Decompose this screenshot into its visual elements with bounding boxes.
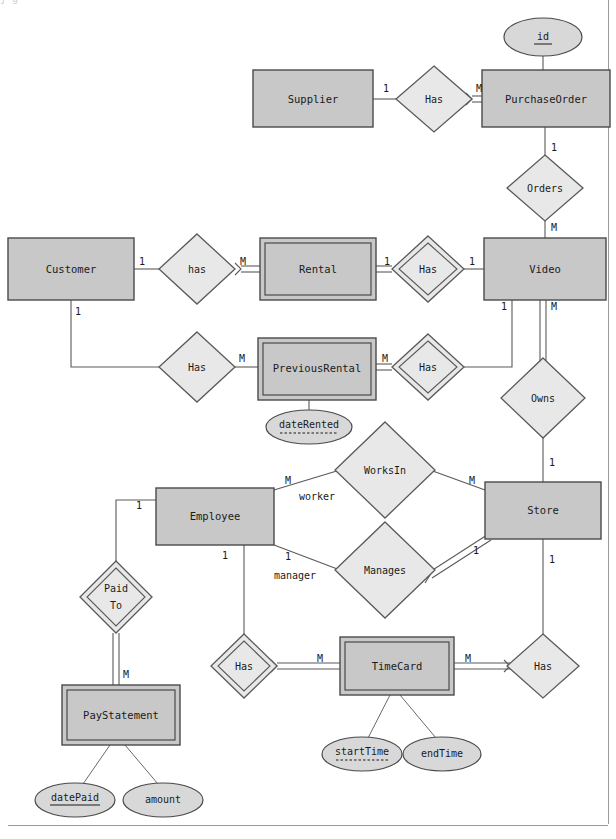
attribute-amount[interactable]: amount: [123, 783, 203, 817]
entity-timecard-label: TimeCard: [372, 660, 423, 672]
relationship-owns-label: Owns: [531, 393, 555, 404]
relationship-worksin[interactable]: WorksIn: [335, 422, 435, 518]
attribute-daterented-label: dateRented: [279, 419, 339, 430]
link-worksin-store: [430, 470, 485, 490]
entity-customer-label: Customer: [46, 263, 97, 275]
cardinality-label: 1: [549, 457, 555, 468]
link-paystatement-datepaid: [83, 745, 110, 784]
cardinality-label: M: [551, 222, 557, 233]
relationship-has-customer-rental-label: has: [188, 264, 206, 275]
entity-video-label: Video: [529, 263, 561, 275]
entity-supplier[interactable]: Supplier: [253, 70, 373, 127]
role-label-manager: manager: [274, 570, 316, 581]
attribute-starttime-label: startTime: [335, 746, 389, 757]
attribute-id[interactable]: id: [504, 18, 582, 56]
entity-video[interactable]: Video: [484, 238, 606, 300]
relationship-paid-to-label-line2: To: [110, 600, 122, 611]
cardinality-label: M: [476, 83, 482, 94]
relationship-has-customer-prevrental[interactable]: Has: [159, 332, 235, 402]
relationship-has-rental-video[interactable]: Has: [392, 236, 464, 302]
attribute-datepaid[interactable]: datePaid: [35, 783, 115, 817]
relationship-has-supplier-po[interactable]: Has: [396, 66, 472, 132]
cardinality-label: M: [285, 475, 291, 486]
relationship-has-customer-prevrental-label: Has: [188, 362, 206, 373]
entity-store[interactable]: Store: [485, 482, 601, 539]
relationship-worksin-label: WorksIn: [364, 465, 406, 476]
entity-employee[interactable]: Employee: [156, 488, 274, 545]
cardinality-label: M: [239, 353, 245, 364]
entity-paystatement-label: PayStatement: [83, 709, 159, 721]
relationship-paid-to-label-line1: Paid: [104, 583, 128, 594]
link-employee-manages: [274, 545, 340, 570]
link-paystatement-amount: [125, 745, 158, 784]
relationship-manages[interactable]: Manages: [335, 522, 435, 618]
entity-supplier-label: Supplier: [288, 93, 339, 105]
cardinality-label: M: [469, 475, 475, 486]
entity-purchaseorder[interactable]: PurchaseOrder: [482, 70, 610, 127]
relationship-has-supplier-po-label: Has: [425, 94, 443, 105]
cardinality-label: 1: [383, 83, 389, 94]
cardinality-label: 1: [75, 306, 81, 317]
link-manages-store-b: [432, 540, 491, 578]
cardinality-label: 1: [285, 551, 291, 562]
entity-employee-label: Employee: [190, 510, 241, 522]
relationship-has-employee-timecard-label: Has: [235, 661, 253, 672]
attribute-endtime[interactable]: endTime: [403, 737, 481, 771]
attribute-endtime-label: endTime: [421, 748, 463, 759]
cardinality-label: 1: [549, 554, 555, 565]
cardinality-label: M: [465, 653, 471, 664]
entity-rental-label: Rental: [299, 263, 337, 275]
attribute-starttime[interactable]: startTime: [322, 737, 402, 771]
relationship-manages-label: Manages: [364, 565, 406, 576]
relationship-has-prevrental-video-label: Has: [419, 362, 437, 373]
cardinality-label: M: [317, 653, 323, 664]
attribute-datepaid-label: datePaid: [51, 792, 99, 803]
relationship-orders-label: Orders: [527, 183, 563, 194]
relationship-has-customer-rental[interactable]: has: [159, 234, 235, 304]
cardinality-label: 1: [501, 301, 507, 312]
attribute-amount-label: amount: [145, 794, 181, 805]
entity-timecard[interactable]: TimeCard: [340, 637, 454, 695]
role-label-worker: worker: [299, 491, 335, 502]
relationship-paid-to[interactable]: Paid To: [80, 561, 152, 633]
cardinality-label: 1: [222, 550, 228, 561]
entity-previousrental-label: PreviousRental: [273, 362, 362, 374]
entity-customer[interactable]: Customer: [8, 238, 134, 300]
er-diagram-svg: Supplier PurchaseOrder Customer Rental V…: [0, 0, 616, 839]
cardinality-label: 1: [469, 256, 475, 267]
cardinality-label: M: [382, 353, 388, 364]
cardinality-label: 1: [136, 500, 142, 511]
link-employee-worksin: [274, 470, 340, 490]
entity-previousrental[interactable]: PreviousRental: [258, 338, 376, 400]
cardinality-label: 1: [551, 142, 557, 153]
relationship-orders[interactable]: Orders: [507, 155, 583, 221]
relationship-has-store-timecard-label: Has: [534, 661, 552, 672]
relationship-has-prevrental-video[interactable]: Has: [392, 334, 464, 400]
relationship-owns[interactable]: Owns: [501, 358, 585, 438]
entity-rental[interactable]: Rental: [260, 238, 376, 300]
er-diagram-canvas: j g: [0, 0, 616, 839]
link-timecard-starttime: [368, 695, 390, 738]
cardinality-label: M: [240, 256, 246, 267]
entity-paystatement[interactable]: PayStatement: [62, 685, 180, 745]
cardinality-label: M: [551, 301, 557, 312]
entity-store-label: Store: [527, 504, 559, 516]
cardinality-label: 1: [473, 545, 479, 556]
cardinality-label: M: [123, 669, 129, 680]
entity-purchaseorder-label: PurchaseOrder: [505, 93, 587, 105]
link-timecard-endtime: [400, 695, 436, 738]
relationship-has-employee-timecard[interactable]: Has: [211, 634, 277, 698]
relationship-has-rental-video-label: Has: [419, 264, 437, 275]
attribute-id-label: id: [537, 31, 549, 42]
cardinality-label: 1: [384, 256, 390, 267]
attribute-daterented[interactable]: dateRented: [266, 410, 352, 444]
role-labels-layer: worker manager: [274, 491, 335, 581]
relationship-has-store-timecard[interactable]: Has: [507, 634, 579, 698]
cardinality-label: 1: [139, 256, 145, 267]
link-customer-hasprev: [71, 300, 159, 367]
